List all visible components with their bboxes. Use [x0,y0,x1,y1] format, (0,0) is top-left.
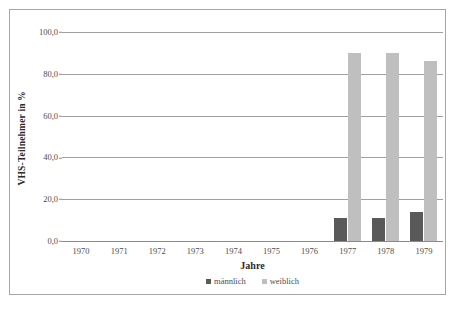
gridline-0-0 [62,241,443,242]
x-tick-label-1978: 1978 [367,244,405,258]
bar-group-1975 [252,32,290,241]
bar-männlich-1979 [410,212,423,241]
bar-group-1978 [367,32,405,241]
x-tick-label-1973: 1973 [176,244,214,258]
bar-männlich-1978 [372,218,385,241]
x-tick-label-1975: 1975 [252,244,290,258]
bar-group-1973 [176,32,214,241]
y-tick-label: 60,0 [26,111,58,120]
bar-weiblich-1977 [348,53,361,241]
chart-figure: VHS-Teilnehmer in % 0,020,040,060,080,01… [0,0,456,311]
bar-group-1977 [329,32,367,241]
x-tick-label-1970: 1970 [62,244,100,258]
bar-group-1970 [62,32,100,241]
bar-weiblich-1978 [386,53,399,241]
bar-group-1976 [291,32,329,241]
legend-item-männlich[interactable]: männlich [206,277,246,286]
legend-item-weiblich[interactable]: weiblich [262,277,299,286]
bars-layer [62,32,443,241]
x-tick-label-1977: 1977 [329,244,367,258]
legend-swatch-icon [206,279,211,284]
chart-legend: männlichweiblich [62,277,443,286]
legend-label: weiblich [270,277,299,286]
x-axis-title: Jahre [62,260,443,271]
bar-group-1972 [138,32,176,241]
plot-area [62,32,443,241]
bar-männlich-1977 [334,218,347,241]
y-tick-label: 80,0 [26,70,58,79]
legend-label: männlich [214,277,246,286]
bar-group-1979 [405,32,443,241]
bar-group-1971 [100,32,138,241]
x-tick-label-1974: 1974 [214,244,252,258]
x-tick-label-1979: 1979 [405,244,443,258]
bar-weiblich-1979 [424,61,437,241]
y-tick-label: 40,0 [26,153,58,162]
y-tick-label: 0,0 [26,237,58,246]
x-tick-label-1971: 1971 [100,244,138,258]
y-tick-label: 100,0 [26,28,58,37]
bar-group-1974 [214,32,252,241]
y-axis-tick-labels: 0,020,040,060,080,0100,0 [26,32,58,241]
legend-swatch-icon [262,279,267,284]
x-axis-tick-labels: 1970197119721973197419751976197719781979 [62,244,443,258]
x-tick-label-1976: 1976 [291,244,329,258]
y-tick-label: 20,0 [26,195,58,204]
x-tick-label-1972: 1972 [138,244,176,258]
